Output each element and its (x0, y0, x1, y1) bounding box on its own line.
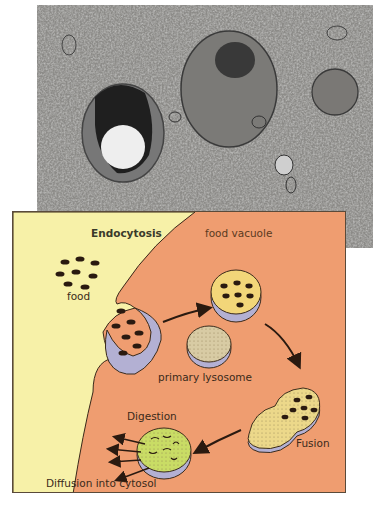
primary-lysosome (187, 326, 231, 368)
label-diffusion: Diffusion into cytosol (46, 477, 157, 489)
label-food: food (67, 290, 90, 302)
endocytosis-diagram: Endocytosis food food vacuole primary ly… (12, 211, 346, 493)
label-fusion: Fusion (296, 437, 330, 449)
food-vacuole (211, 270, 261, 322)
label-digestion: Digestion (127, 410, 177, 422)
label-endocytosis: Endocytosis (91, 227, 162, 239)
digestion-vesicle (137, 428, 191, 479)
label-food-vacuole: food vacuole (205, 227, 272, 239)
label-primary-lysosome: primary lysosome (158, 371, 252, 383)
